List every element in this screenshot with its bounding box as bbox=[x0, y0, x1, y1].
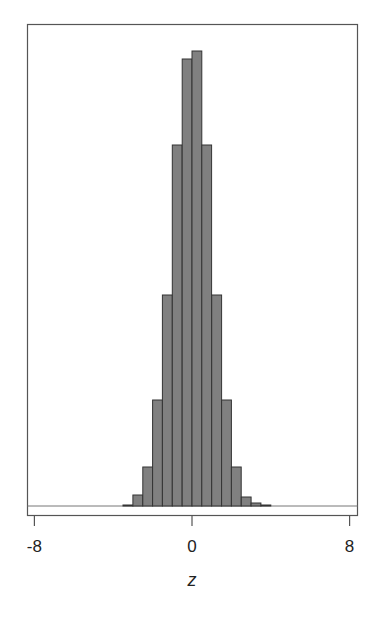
histogram-bar bbox=[241, 497, 251, 506]
histogram-bar bbox=[172, 145, 182, 506]
histogram-bar bbox=[153, 400, 163, 506]
histogram-bar bbox=[143, 467, 153, 506]
histogram-bars bbox=[123, 51, 271, 506]
histogram-bar bbox=[162, 295, 172, 506]
x-tick-label: 0 bbox=[187, 537, 196, 556]
histogram-bar bbox=[133, 495, 143, 506]
histogram-bar bbox=[182, 59, 192, 506]
histogram-bar bbox=[231, 467, 241, 506]
x-axis-title: z bbox=[187, 570, 197, 590]
histogram-chart: -808 z bbox=[0, 0, 380, 618]
histogram-bar bbox=[251, 503, 261, 506]
histogram-bar bbox=[192, 51, 202, 506]
histogram-bar bbox=[222, 400, 232, 506]
histogram-bar bbox=[261, 505, 271, 506]
histogram-bar bbox=[202, 145, 212, 506]
histogram-bar bbox=[212, 295, 222, 506]
x-axis: -808 bbox=[27, 516, 354, 557]
x-tick-label: 8 bbox=[345, 537, 354, 556]
x-tick-label: -8 bbox=[27, 537, 42, 556]
histogram-bar bbox=[123, 505, 133, 506]
